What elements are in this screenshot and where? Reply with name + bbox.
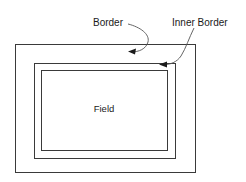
border-leader-line: [128, 24, 148, 52]
diagram-canvas: Border Inner Border Field: [0, 0, 246, 182]
inner-border-label: Inner Border: [172, 17, 228, 28]
border-arrowhead-icon: [128, 49, 136, 55]
inner-border-arrowhead-icon: [159, 62, 167, 68]
diagram-svg: Border Inner Border Field: [0, 0, 246, 182]
border-label: Border: [93, 17, 124, 28]
field-label: Field: [94, 103, 115, 114]
inner-border-leader-line: [163, 28, 194, 65]
